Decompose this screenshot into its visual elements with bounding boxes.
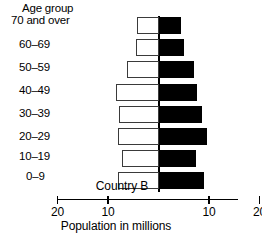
axis-tick-label-20-left: 20 [51,205,64,219]
bar-right-10-19 [159,150,197,167]
axis-tick-label-10-right: 10 [203,205,216,219]
axis-tick-label-10-left: 10 [102,205,115,219]
bar-left-10-19 [122,150,159,167]
bar-left-20-29 [118,128,158,145]
bar-right-30-39 [159,106,202,123]
bar-right-70-and-over [159,17,182,34]
bar-right-60-69 [159,39,184,56]
axis-tick-20-right [259,196,260,204]
series-caption: Country B [0,179,262,193]
value-axis-title: Population in millions [0,219,262,233]
bar-right-20-29 [159,128,207,145]
bar-right-50-59 [159,61,194,78]
population-pyramid-chart: Age group 70 and over 60–69 50–59 40–49 … [0,0,262,235]
series-caption-text: Country B [96,179,148,193]
bar-left-70-and-over [137,17,158,34]
value-axis [0,196,262,208]
bar-right-40-49 [159,84,198,101]
axis-baseline [57,199,238,200]
axis-tick-10-left [107,196,108,204]
axis-tick-label-20-right: 20 [253,205,262,219]
axis-tick-20-left [57,196,58,204]
bar-left-30-39 [119,106,158,123]
value-axis-title-text: Population in millions [61,219,172,233]
axis-tick-10-right [208,196,209,204]
plot-area [0,0,262,192]
bar-left-50-59 [127,61,159,78]
bar-left-40-49 [116,84,159,101]
bar-left-60-69 [136,39,159,56]
